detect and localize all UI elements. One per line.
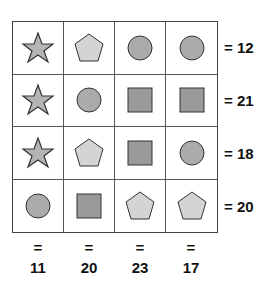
equals-sign: = [120,238,160,258]
grid-cell [166,127,217,180]
grid-cell [115,127,166,180]
row-sum-1: = 12 [224,39,254,56]
pentagon-icon [72,136,106,170]
grid-cell [13,22,64,75]
puzzle-grid [12,21,218,233]
grid-cell [115,22,166,75]
pentagon-icon [175,189,209,223]
col-sum-value: 11 [18,258,58,278]
star-icon [21,136,55,170]
col-sum-1: =11 [18,238,58,278]
square-icon [123,136,157,170]
col-sum-2: =20 [69,238,109,278]
grid-cell [64,127,115,180]
grid-cell [13,127,64,180]
col-sum-value: 17 [171,258,211,278]
col-sum-3: =23 [120,238,160,278]
pentagon-icon [123,189,157,223]
pentagon-icon [72,31,106,65]
grid-cell [115,75,166,128]
grid-cell [166,180,217,233]
grid-cell [13,180,64,233]
row-sum-2: = 21 [224,92,254,109]
row-sum-4: = 20 [224,198,254,215]
circle-icon [21,189,55,223]
star-icon [21,31,55,65]
equals-sign: = [171,238,211,258]
grid-cell [64,22,115,75]
grid-cell [166,75,217,128]
equals-sign: = [18,238,58,258]
square-icon [175,83,209,117]
grid-cell [64,180,115,233]
col-sum-4: =17 [171,238,211,278]
star-icon [21,83,55,117]
circle-icon [72,83,106,117]
circle-icon [123,31,157,65]
equals-sign: = [69,238,109,258]
circle-icon [175,136,209,170]
square-icon [72,189,106,223]
grid-cell [115,180,166,233]
col-sum-value: 23 [120,258,160,278]
grid-cell [13,75,64,128]
grid-cell [64,75,115,128]
square-icon [123,83,157,117]
grid-cell [166,22,217,75]
col-sum-value: 20 [69,258,109,278]
row-sum-3: = 18 [224,145,254,162]
circle-icon [175,31,209,65]
